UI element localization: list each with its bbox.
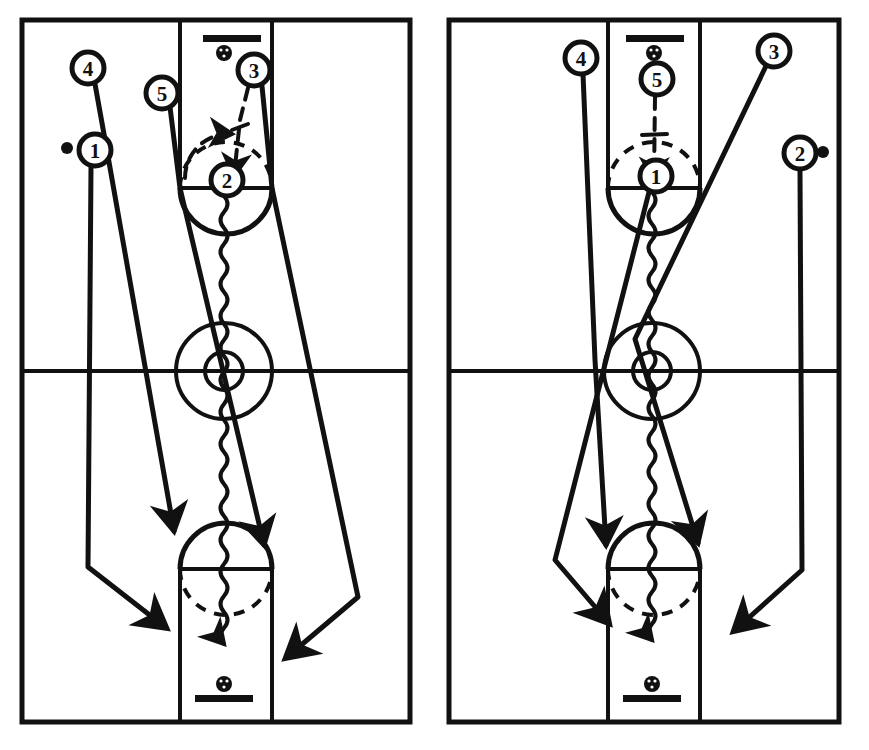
right-diagram[interactable]: 4 5 3 2 1 bbox=[435, 0, 869, 750]
backboard-icon bbox=[623, 695, 681, 702]
player-marker-5[interactable]: 5 bbox=[641, 63, 673, 95]
player-number-label: 2 bbox=[795, 142, 806, 166]
play-actions-right bbox=[555, 66, 802, 640]
player-number-label: 5 bbox=[157, 82, 168, 106]
hoop-icon bbox=[646, 45, 662, 61]
player-number-label: 4 bbox=[83, 57, 94, 81]
pass-cross-tick bbox=[642, 134, 667, 135]
cut-1-to-baseline-line bbox=[88, 167, 165, 627]
player-marker-3[interactable]: 3 bbox=[758, 35, 790, 67]
player-number-label: 2 bbox=[222, 169, 233, 193]
player-number-label: 3 bbox=[249, 59, 260, 83]
player-marker-2[interactable]: 2 bbox=[211, 164, 243, 196]
cut-4-to-lane-line bbox=[583, 74, 606, 545]
player-number-label: 1 bbox=[651, 165, 662, 189]
player-marker-4[interactable]: 4 bbox=[565, 42, 597, 74]
hoop-icon bbox=[644, 676, 660, 692]
player-number-label: 1 bbox=[90, 139, 101, 163]
player-marker-1[interactable]: 1 bbox=[640, 160, 672, 192]
player-marker-2[interactable]: 2 bbox=[784, 137, 816, 169]
ball-dot bbox=[61, 142, 73, 154]
hoop-icon bbox=[216, 676, 232, 692]
dribble-2-downcourt-line bbox=[221, 196, 228, 644]
pass-3-to-2-line bbox=[234, 88, 248, 176]
diagram-page: 4 1 5 3 2 bbox=[0, 0, 869, 750]
ball-dot bbox=[817, 146, 829, 158]
player-marker-1[interactable]: 1 bbox=[79, 134, 111, 166]
right-court-svg: 4 5 3 2 1 bbox=[435, 0, 869, 750]
backboard-icon bbox=[203, 35, 261, 42]
basket-bottom-right-court bbox=[623, 676, 681, 702]
player-number-label: 4 bbox=[576, 47, 587, 71]
player-marker-5[interactable]: 5 bbox=[146, 77, 178, 109]
player-number-label: 3 bbox=[769, 40, 780, 64]
left-court-svg: 4 1 5 3 2 bbox=[0, 0, 435, 750]
pass-cross-tick bbox=[232, 124, 248, 130]
left-diagram[interactable]: 4 1 5 3 2 bbox=[0, 0, 435, 750]
player-marker-4[interactable]: 4 bbox=[72, 52, 104, 84]
backboard-icon bbox=[195, 695, 253, 702]
backboard-icon bbox=[626, 35, 684, 42]
player-marker-3[interactable]: 3 bbox=[238, 54, 270, 86]
cut-2-to-corner-line bbox=[735, 170, 802, 630]
players-right[interactable]: 4 5 3 2 1 bbox=[565, 35, 816, 192]
player-number-label: 5 bbox=[652, 68, 663, 92]
hoop-icon bbox=[216, 45, 232, 61]
basket-bottom-left-court bbox=[195, 676, 253, 702]
dribble-1-downcourt-line bbox=[649, 192, 656, 640]
basket-top-right-court bbox=[626, 35, 684, 61]
cut-1-to-corner-line bbox=[555, 192, 649, 622]
court-lines-left bbox=[22, 20, 410, 722]
